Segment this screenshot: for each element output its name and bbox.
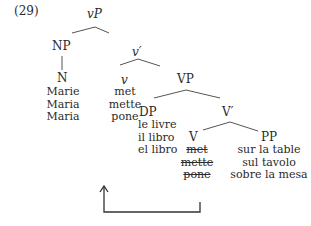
tree-branches [0, 0, 311, 226]
branch-v-bar [120, 59, 160, 66]
branch-V-bar [203, 122, 258, 131]
branch-vP [72, 27, 109, 33]
movement-arrow [100, 186, 200, 212]
branch-VP [154, 90, 220, 98]
